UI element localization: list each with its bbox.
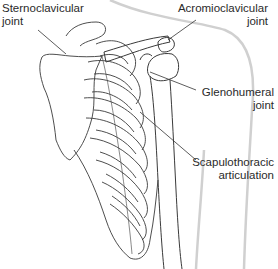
- rib-cage: [40, 22, 158, 259]
- label-scapulothoracic-articulation: Scapulothoracic articulation: [192, 156, 274, 182]
- shoulder-anatomy-diagram: Sternoclavicular joint Acromioclavicular…: [0, 0, 278, 269]
- leader-sternoclavicular: [38, 30, 66, 54]
- label-glenohumeral-joint: Glenohumeral joint: [202, 86, 274, 112]
- label-acromioclavicular-joint: Acromioclavicular joint: [178, 2, 268, 28]
- body-silhouette: [110, 0, 253, 269]
- leader-scapulothoracic: [140, 112, 196, 160]
- anatomy-illustration: [0, 0, 278, 269]
- label-sternoclavicular-joint: Sternoclavicular joint: [2, 2, 84, 28]
- leader-glenohumeral: [150, 72, 196, 90]
